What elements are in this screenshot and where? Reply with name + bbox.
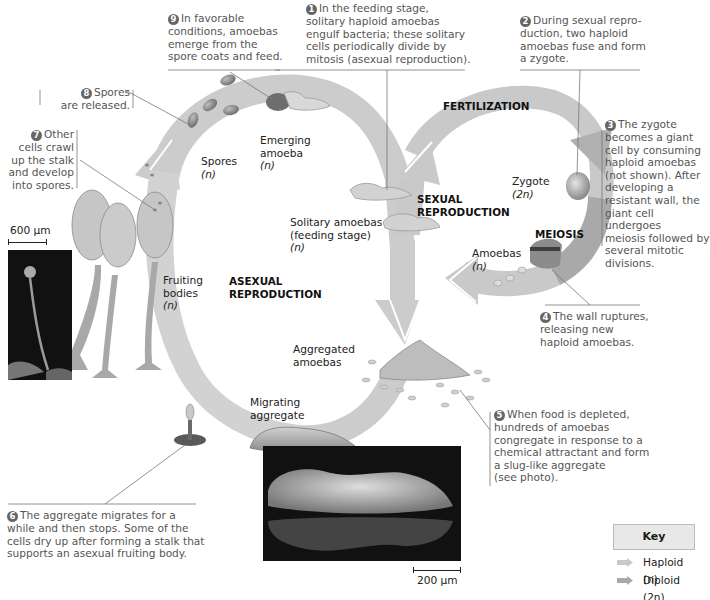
asexual-cycle-arrow (135, 75, 420, 451)
slug-micrograph-artwork (263, 446, 461, 561)
haploid-arrow-icon (617, 558, 633, 567)
label-sexual-reproduction: SEXUAL REPRODUCTION (417, 193, 510, 218)
label-migrating-aggregate: Migrating aggregate (250, 396, 304, 421)
step-number-badge: 6 (7, 511, 18, 522)
culminant-illustration (174, 404, 206, 446)
label-zygote: Zygote (2n) (512, 175, 549, 200)
zygote-cell (566, 172, 590, 200)
step-number-badge: 7 (31, 130, 42, 141)
slug-micrograph (263, 446, 461, 561)
step-number-badge: 1 (306, 4, 317, 15)
step-4-caption: 4The wall ruptures, releasing new haploi… (540, 310, 660, 348)
step-3-caption: 3The zygote becomes a giant cell by cons… (605, 118, 710, 270)
step-8-caption: 8Spores are released. (40, 86, 130, 112)
fruiting-body-micrograph (8, 250, 72, 380)
scale-bar-tick (46, 239, 47, 245)
label-solitary-amoebas: Solitary amoebas (feeding stage) (n) (290, 216, 382, 254)
scale-bar-200um: 200 µm (413, 567, 473, 591)
step-number-badge: 4 (540, 312, 551, 323)
scale-bar-tick (413, 567, 414, 573)
step-number-badge: 2 (520, 16, 531, 27)
label-asexual-reproduction: ASEXUAL REPRODUCTION (229, 275, 322, 300)
label-aggregated-amoebas: Aggregated amoebas (293, 343, 355, 368)
step-6-caption: 6The aggregate migrates for a while and … (7, 509, 207, 560)
scale-bar-line (413, 570, 460, 571)
step-5-caption: 5When food is depleted, hundreds of amoe… (494, 408, 664, 484)
label-amoebas: Amoebas (n) (472, 247, 521, 272)
step-number-badge: 3 (605, 120, 616, 131)
step-2-caption: 2During sexual repro- duction, two haplo… (520, 14, 650, 65)
dictyostelium-life-cycle-figure: 9In favorable conditions, amoebas emerge… (0, 0, 710, 600)
legend-key: Key Haploid (n) Diploid (2n) (613, 524, 695, 589)
step-1-caption: 1In the feeding stage, solitary haploid … (306, 2, 476, 65)
legend-title: Key (613, 524, 695, 550)
scale-bar-tick (460, 567, 461, 573)
step-7-caption: 7Other cells crawl up the stalk and deve… (2, 128, 74, 191)
label-fruiting-bodies: Fruiting bodies (n) (163, 274, 203, 312)
scale-bar-tick (8, 239, 9, 245)
legend-item-haploid: Haploid (n) (613, 554, 695, 571)
label-emerging-amoeba: Emerging amoeba (n) (260, 134, 311, 172)
label-fertilization: FERTILIZATION (443, 100, 529, 113)
scale-bar-600um: 600 µm (8, 224, 58, 248)
step-9-caption: 9In favorable conditions, amoebas emerge… (168, 12, 288, 63)
micrograph-artwork (8, 250, 72, 380)
fruiting-bodies-illustration (62, 164, 173, 379)
step-number-badge: 5 (494, 410, 505, 421)
scale-bar-line (8, 242, 46, 243)
legend-item-diploid: Diploid (2n) (613, 572, 695, 589)
step-number-badge: 8 (81, 88, 92, 99)
label-spores: Spores (n) (201, 155, 237, 180)
label-meiosis: MEIOSIS (535, 228, 584, 241)
diploid-arrow-icon (617, 576, 633, 585)
step-number-badge: 9 (168, 14, 179, 25)
